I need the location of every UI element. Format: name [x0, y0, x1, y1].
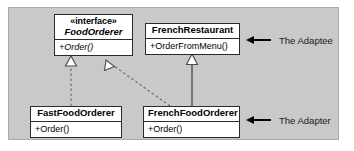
- annotation-label-adaptee: The Adaptee: [279, 35, 333, 46]
- class-stereotype-foodorderer: «interface»: [59, 16, 128, 27]
- annotation-adapter: The Adapter: [246, 113, 331, 127]
- annotation-label-adapter: The Adapter: [279, 115, 331, 126]
- class-header-frenchrestaurant: FrenchRestaurant: [146, 24, 239, 39]
- class-box-frenchfoodorderer[interactable]: FrenchFoodOrderer +Order(): [143, 106, 240, 138]
- annotation-adaptee: The Adaptee: [246, 33, 333, 47]
- class-header-foodorderer: «interface» FoodOrderer: [55, 15, 132, 40]
- class-name-fastfoodorderer: FastFoodOrderer: [35, 108, 117, 119]
- connector-frenchfood-realizes-foodorderer: [105, 60, 171, 106]
- class-operations-foodorderer: +Order(): [55, 40, 132, 55]
- connector-frenchfood-inherits-frenchrestaurant: [187, 54, 198, 106]
- class-box-fastfoodorderer[interactable]: FastFoodOrderer +Order(): [30, 106, 122, 138]
- left-arrow-icon: [246, 36, 271, 45]
- class-name-frenchrestaurant: FrenchRestaurant: [150, 25, 235, 36]
- class-header-fastfoodorderer: FastFoodOrderer: [31, 107, 121, 122]
- operation-orderfrommenu: +OrderFromMenu(): [150, 41, 228, 51]
- class-operations-frenchrestaurant: +OrderFromMenu(): [146, 39, 239, 54]
- class-header-frenchfoodorderer: FrenchFoodOrderer: [144, 107, 239, 122]
- class-name-foodorderer: FoodOrderer: [59, 27, 128, 38]
- operation-order: +Order(): [148, 124, 182, 134]
- class-operations-fastfoodorderer: +Order(): [31, 122, 121, 137]
- operation-order: +Order(): [35, 124, 69, 134]
- diagram-canvas: «interface» FoodOrderer +Order() FrenchR…: [0, 0, 354, 151]
- connector-fastfood-realizes-foodorderer: [66, 56, 77, 106]
- class-box-foodorderer[interactable]: «interface» FoodOrderer +Order(): [54, 14, 133, 56]
- class-operations-frenchfoodorderer: +Order(): [144, 122, 239, 137]
- class-box-frenchrestaurant[interactable]: FrenchRestaurant +OrderFromMenu(): [145, 23, 240, 55]
- class-name-frenchfoodorderer: FrenchFoodOrderer: [148, 108, 235, 119]
- left-arrow-icon: [246, 116, 271, 125]
- operation-order: +Order(): [59, 42, 93, 52]
